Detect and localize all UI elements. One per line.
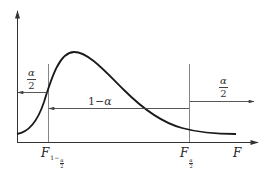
right-tail-denominator: 2: [220, 88, 226, 99]
density-curve: [17, 52, 236, 134]
right-tail-label: α 2: [219, 76, 228, 99]
left-tail-denominator: 2: [28, 80, 34, 91]
middle-region-alpha: α: [104, 95, 111, 108]
right-tail-numerator: α: [219, 76, 228, 88]
left-tail-numerator: α: [27, 68, 36, 80]
x-axis-label: F: [233, 147, 241, 159]
upper-critical-label: Fα2: [180, 147, 193, 169]
lower-critical-subfraction: α2: [60, 158, 63, 169]
left-tail-label: α 2: [27, 68, 36, 91]
middle-region-prefix: 1−: [88, 95, 104, 108]
lower-critical-subscript: 1−: [50, 154, 59, 161]
upper-critical-symbol: F: [180, 146, 188, 160]
lower-critical-symbol: F: [41, 146, 49, 160]
f-distribution-diagram: α 2 α 2 1−α F1−α2 Fα2 F: [0, 0, 267, 174]
upper-critical-subfraction: α2: [189, 158, 192, 169]
middle-region-label: 1−α: [88, 96, 112, 107]
lower-critical-label: F1−α2: [41, 147, 64, 169]
